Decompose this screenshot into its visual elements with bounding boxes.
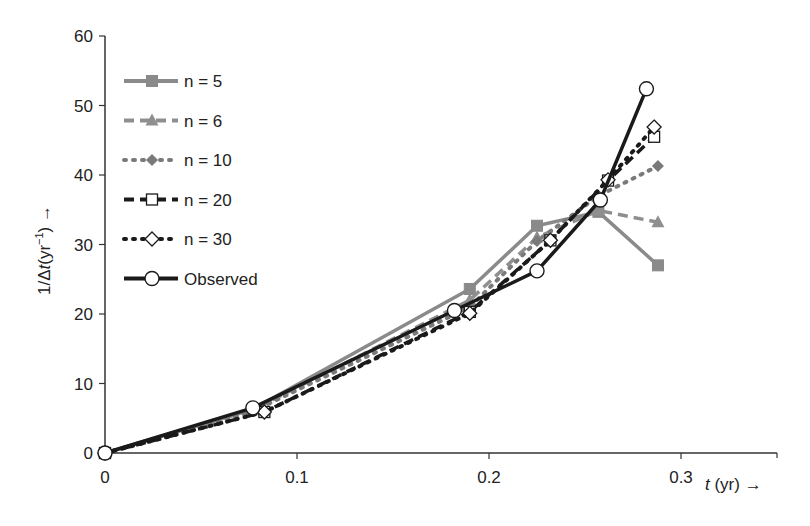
legend-label: n = 30 — [184, 230, 232, 249]
legend-item: n = 10 — [124, 151, 232, 170]
x-tick-label: 0.1 — [285, 468, 309, 487]
legend-item: n = 5 — [124, 72, 222, 91]
legend-item: Observed — [124, 270, 258, 289]
line-chart: 010203040506000.10.20.3t (yr) →1/Δt(yr−1… — [0, 0, 810, 526]
x-tick-label: 0.3 — [669, 468, 693, 487]
legend-item: n = 6 — [124, 112, 222, 131]
y-axis-label: 1/Δt(yr−1) → — [33, 205, 54, 295]
x-tick-label: 0 — [100, 468, 109, 487]
legend: n = 5n = 6n = 10n = 20n = 30Observed — [124, 72, 258, 289]
series-n20 — [100, 131, 660, 458]
plot-area — [98, 82, 664, 460]
y-tick-label: 60 — [74, 27, 93, 46]
x-axis-label: t (yr) → — [705, 475, 762, 494]
y-tick-label: 40 — [74, 166, 93, 185]
legend-label: n = 5 — [184, 72, 222, 91]
x-tick-label: 0.2 — [477, 468, 501, 487]
y-tick-label: 50 — [74, 97, 93, 116]
y-tick-label: 0 — [84, 444, 93, 463]
series-n30 — [98, 120, 661, 460]
series-observed — [98, 82, 653, 460]
axes: 010203040506000.10.20.3t (yr) →1/Δt(yr−1… — [33, 27, 777, 494]
legend-label: n = 20 — [184, 191, 232, 210]
legend-label: Observed — [184, 270, 258, 289]
y-tick-label: 10 — [74, 375, 93, 394]
legend-label: n = 10 — [184, 151, 232, 170]
legend-label: n = 6 — [184, 112, 222, 131]
y-tick-label: 30 — [74, 236, 93, 255]
legend-item: n = 30 — [124, 230, 232, 249]
y-tick-label: 20 — [74, 305, 93, 324]
legend-item: n = 20 — [124, 191, 232, 210]
